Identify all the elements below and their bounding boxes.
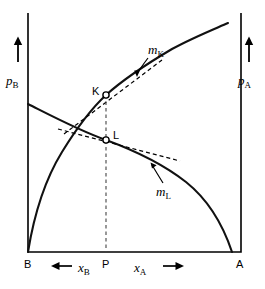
x-axis-corner-label-a: A — [236, 259, 243, 270]
x-axis-label-xa: xA — [134, 259, 146, 277]
x-axis-label-xb: xB — [78, 259, 90, 277]
slope-label-ml-base: m — [156, 184, 165, 199]
figure-container: pB pA K L mK mL B A P xB xA — [0, 0, 265, 289]
up-arrow-icon-right — [245, 37, 253, 63]
point-label-l: L — [113, 130, 119, 141]
slope-label-ml: mL — [156, 183, 171, 201]
point-marker-l — [103, 137, 109, 143]
point-marker-k — [103, 92, 109, 98]
left-arrow-icon-xb — [51, 262, 72, 270]
slope-label-mk-sub: K — [157, 49, 164, 59]
x-axis-label-p: P — [102, 259, 109, 270]
leader-arrow-mk — [134, 58, 148, 77]
right-arrow-icon-xa — [163, 262, 184, 270]
curve-pb — [28, 104, 232, 252]
y-axis-label-right: pA — [238, 72, 251, 90]
slope-label-mk-base: m — [148, 42, 157, 57]
plot-canvas — [0, 0, 265, 289]
y-axis-label-left-sub: B — [13, 80, 19, 90]
x-axis-corner-label-b: B — [24, 259, 31, 270]
point-label-k: K — [92, 86, 99, 97]
y-axis-label-left: pB — [6, 72, 19, 90]
y-axis-label-right-sub: A — [245, 80, 252, 90]
x-axis-label-xb-sub: B — [84, 267, 90, 277]
curve-pa — [28, 23, 228, 252]
slope-label-ml-sub: L — [165, 191, 171, 201]
slope-label-mk: mK — [148, 41, 164, 59]
x-axis-label-xa-sub: A — [140, 267, 147, 277]
plot-frame — [28, 13, 241, 252]
tangent-line-k — [64, 60, 162, 134]
up-arrow-icon-left — [14, 37, 22, 63]
